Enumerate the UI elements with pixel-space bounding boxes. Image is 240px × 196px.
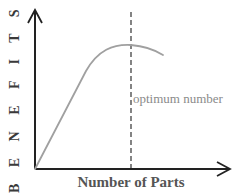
benefits-vs-parts-diagram: B E N E F I T S optimum number Number of… bbox=[0, 0, 240, 196]
x-axis-label: Number of Parts bbox=[0, 174, 240, 191]
optimum-number-label: optimum number bbox=[133, 91, 223, 107]
y-axis-label: B E N E F I T S bbox=[7, 3, 23, 193]
